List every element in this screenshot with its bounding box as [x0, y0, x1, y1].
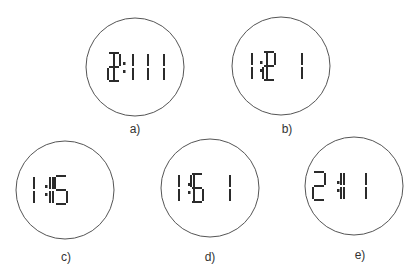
- clock-label-c: c): [61, 250, 71, 264]
- clock-bezel: [161, 139, 259, 237]
- lcd-digit: [55, 176, 67, 204]
- clock-face-e: [305, 137, 403, 235]
- clock-face-a: [86, 18, 184, 116]
- lcd-digit: [313, 172, 325, 200]
- lcd-display: [252, 52, 302, 80]
- lcd-display: [313, 172, 366, 200]
- clock-faces-canvas: [0, 0, 419, 277]
- clock-bezel: [86, 18, 184, 116]
- clock-face-b: [232, 17, 330, 115]
- clock-label-e: e): [355, 248, 366, 262]
- lcd-digit: [263, 52, 275, 80]
- lcd-digit: [191, 174, 203, 202]
- clock-label-d: d): [205, 250, 216, 264]
- clock-bezel: [232, 17, 330, 115]
- lcd-display: [179, 174, 230, 202]
- clock-face-d: [161, 139, 259, 237]
- clock-label-a: a): [130, 122, 141, 136]
- lcd-display: [108, 53, 164, 81]
- clock-label-b: b): [282, 122, 293, 136]
- lcd-display: [34, 176, 67, 204]
- clock-face-c: [16, 141, 114, 239]
